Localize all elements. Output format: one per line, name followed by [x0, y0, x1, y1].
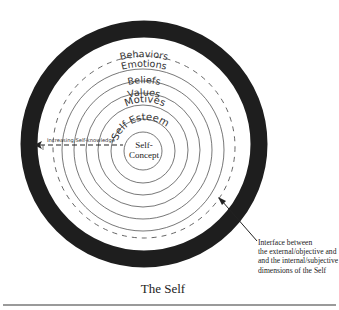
diagram-title: The Self: [0, 281, 326, 297]
annotation-line-1: Interface between: [258, 238, 338, 247]
annotation-line-4: dimensions of the Self: [258, 266, 338, 275]
self-knowledge-label: Increasing Self-knowledge: [47, 137, 115, 144]
annotation-line-3: and the internal/subjective: [258, 256, 338, 265]
bottom-divider: [3, 304, 336, 306]
interface-annotation: Interface between the external/objective…: [258, 238, 338, 275]
self-concept-label-line2: Concept: [129, 150, 159, 160]
beliefs-label: Beliefs: [126, 74, 161, 87]
annotation-line-2: the external/objective and: [258, 247, 338, 256]
self-esteem-label: Self Esteem: [109, 111, 171, 142]
emotions-label: Emotions: [120, 58, 168, 72]
self-concept-label-line1: Self-: [135, 140, 153, 150]
